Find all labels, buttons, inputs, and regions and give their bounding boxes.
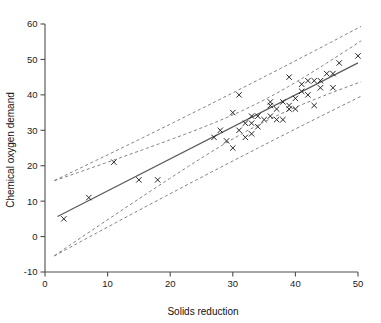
x-tick-label-4: 40: [290, 278, 301, 289]
data-point-marker: [243, 121, 248, 126]
x-axis-title: Solids reduction: [167, 306, 238, 317]
data-point: [249, 121, 254, 126]
y-tick-label-7: 60: [27, 18, 38, 29]
tick-labels-group: -10010203040506001020304050: [24, 18, 364, 289]
data-point-marker: [136, 177, 141, 182]
x-tick-label-1: 10: [102, 278, 113, 289]
data-point-marker: [305, 92, 310, 97]
data-point-marker: [305, 78, 310, 83]
data-point: [86, 195, 91, 200]
data-point: [286, 74, 291, 79]
y-tick-label-0: -10: [24, 266, 38, 277]
data-point: [249, 131, 254, 136]
y-tick-label-5: 40: [27, 89, 38, 100]
data-point-marker: [293, 106, 298, 111]
y-tick-label-6: 50: [27, 54, 38, 65]
data-point-marker: [155, 177, 160, 182]
data-point-marker: [236, 92, 241, 97]
data-point-marker: [249, 121, 254, 126]
data-point-marker: [330, 85, 335, 90]
data-point-marker: [286, 74, 291, 79]
data-point-marker: [61, 216, 66, 221]
data-point-marker: [337, 60, 342, 65]
data-point: [274, 117, 279, 122]
data-point-marker: [299, 82, 304, 87]
data-point: [268, 113, 273, 118]
y-tick-label-3: 20: [27, 160, 38, 171]
y-tick-label-1: 0: [32, 231, 37, 242]
y-tick-label-4: 30: [27, 125, 38, 136]
data-point-marker: [274, 106, 279, 111]
band-lines-group: [54, 26, 361, 256]
data-point: [236, 92, 241, 97]
data-point: [61, 216, 66, 221]
y-tick-label-2: 10: [27, 196, 38, 207]
data-point-marker: [218, 128, 223, 133]
data-point: [280, 117, 285, 122]
x-tick-label-3: 30: [228, 278, 239, 289]
data-point-marker: [86, 195, 91, 200]
data-point: [299, 82, 304, 87]
data-point: [293, 96, 298, 101]
data-point-marker: [261, 117, 266, 122]
data-point: [243, 121, 248, 126]
regression-line: [58, 63, 358, 217]
x-tick-label-0: 0: [42, 278, 47, 289]
data-point-marker: [318, 85, 323, 90]
x-tick-label-5: 50: [353, 278, 364, 289]
data-point-marker: [274, 117, 279, 122]
x-tick-label-2: 20: [165, 278, 176, 289]
data-point: [218, 128, 223, 133]
data-point-marker: [355, 53, 360, 58]
data-point: [293, 106, 298, 111]
data-point: [230, 145, 235, 150]
data-point: [243, 135, 248, 140]
y-axis-title: Chemical oxygen demand: [5, 92, 16, 208]
data-point: [355, 53, 360, 58]
data-point: [261, 117, 266, 122]
data-point: [286, 106, 291, 111]
data-point-marker: [236, 128, 241, 133]
data-point-marker: [280, 117, 285, 122]
data-point-marker: [243, 135, 248, 140]
lower-confidence-band-path: [54, 82, 361, 256]
data-point-marker: [230, 145, 235, 150]
data-point-marker: [286, 106, 291, 111]
data-point: [318, 85, 323, 90]
data-point: [155, 177, 160, 182]
upper-prediction-band-path: [54, 26, 361, 180]
data-point-marker: [293, 96, 298, 101]
data-point: [337, 60, 342, 65]
data-point: [268, 99, 273, 104]
data-point-marker: [268, 113, 273, 118]
data-point-marker: [324, 71, 329, 76]
data-point: [311, 103, 316, 108]
data-point: [305, 78, 310, 83]
data-point-marker: [311, 103, 316, 108]
upper-confidence-band-path: [54, 41, 361, 181]
data-point: [305, 92, 310, 97]
data-point: [136, 177, 141, 182]
data-point-marker: [268, 99, 273, 104]
data-point: [274, 106, 279, 111]
data-point: [330, 85, 335, 90]
data-points-group: [61, 53, 361, 221]
lower-prediction-band-path: [54, 96, 361, 256]
regression-line-group: [58, 63, 358, 217]
data-point-marker: [311, 78, 316, 83]
data-point-marker: [249, 131, 254, 136]
chart-figure: -10010203040506001020304050 Solids reduc…: [0, 0, 381, 323]
scatter-plot-canvas: -10010203040506001020304050 Solids reduc…: [0, 0, 381, 323]
data-point: [311, 78, 316, 83]
data-point: [324, 71, 329, 76]
axes-group: [41, 24, 359, 277]
data-point: [236, 128, 241, 133]
